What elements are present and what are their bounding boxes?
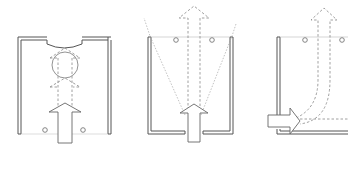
panel-3 xyxy=(268,8,348,134)
curved-dashed-arrow-out xyxy=(296,8,337,124)
dot-left xyxy=(43,128,48,133)
fan-line-left xyxy=(144,18,185,115)
panel-1 xyxy=(18,37,111,143)
dashed-arrowhead-top xyxy=(50,48,80,58)
dashed-shaft xyxy=(58,58,72,110)
solid-arrow-in-side xyxy=(268,108,300,134)
fan-line-right xyxy=(201,24,236,115)
dot-left xyxy=(174,38,179,43)
dot-left xyxy=(303,38,308,43)
solid-arrow-in xyxy=(49,103,81,143)
dot-right xyxy=(210,38,215,43)
dashed-arrow-out xyxy=(179,6,209,110)
panel-2 xyxy=(144,6,236,142)
solid-arrow-in xyxy=(180,104,208,142)
circle-element xyxy=(52,52,78,78)
curved-niche xyxy=(47,40,82,48)
dot-right xyxy=(81,128,86,133)
diagram-canvas xyxy=(0,0,348,172)
dot-right xyxy=(340,38,345,43)
dashed-arrowhead-mid xyxy=(50,78,80,87)
